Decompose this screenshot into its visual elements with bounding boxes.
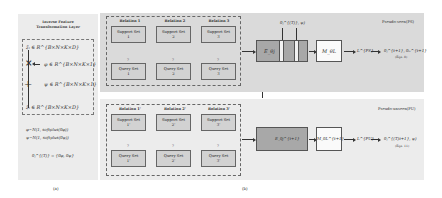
output-ps: θⱼ^{t+1}, θₘ^{t+1} <box>384 48 427 53</box>
question-mark: ? <box>124 57 132 62</box>
encoder-label: E_θj^{t+1} <box>275 136 300 141</box>
eqn-ref: (Eqn. 11) <box>395 144 409 148</box>
support-set-box: Support Set1' <box>111 114 146 131</box>
relation-label: Relation 3 <box>204 19 234 23</box>
query-set-box: Query Set2 <box>156 63 191 80</box>
pseudo-unseen-label: Pseudo-unseen(PU) <box>378 106 416 111</box>
query-set-box: Query Set2' <box>156 150 191 167</box>
m-block: M_θL <box>316 40 342 62</box>
dist-phi: φ~N(1, softplus(θφ)) <box>26 127 68 132</box>
arrow-to-output <box>371 51 379 52</box>
caption-a: (a) <box>53 186 59 191</box>
arrow-to-m <box>309 139 315 140</box>
arrow-to-loss <box>344 51 354 52</box>
eq-z-input: z̃ᵢ ∈ R^{B×N×K×D} <box>26 44 79 50</box>
support-set-box: Support Set2' <box>156 114 191 131</box>
arrow-phi <box>34 64 40 65</box>
question-mark: ? <box>124 143 132 148</box>
feature-transform-layer <box>279 41 284 61</box>
eq-psi: ψ ∈ R^{B×N×K×1} <box>44 81 97 87</box>
add-icon: + <box>24 79 32 88</box>
relation-label: Relation 1' <box>115 107 145 111</box>
support-set-box: Support Set3 <box>201 26 236 43</box>
theta-def: θⱼ^{(T)} = {θφ, θψ} <box>32 153 74 158</box>
theta-input-label: θⱼ^{(T)}, ψ) <box>280 20 305 25</box>
caption-b: (b) <box>242 186 248 191</box>
m-block: M_θL^{t+1} <box>316 127 342 151</box>
eq-phi: φ ∈ R^{B×N×K×1} <box>44 61 96 67</box>
relation-label: Relation 1 <box>115 19 145 23</box>
support-set-box: Support Set2 <box>156 26 191 43</box>
relation-label: Relation 2' <box>160 107 190 111</box>
dist-psi: ψ~N(1, softplus(θψ)) <box>26 135 69 140</box>
question-mark: ? <box>169 57 177 62</box>
theta-arrow <box>296 28 297 40</box>
theta-arrow <box>282 28 283 40</box>
query-set-box: Query Set3 <box>201 63 236 80</box>
question-mark: ? <box>214 57 222 62</box>
query-set-box: Query Set3' <box>201 150 236 167</box>
down-arrow <box>262 92 263 98</box>
pseudo-seen-label: Pseudo-seen(PS) <box>382 19 414 24</box>
encoder-label: E_θj <box>264 48 275 54</box>
arrow-to-m <box>309 51 315 52</box>
arrow-to-encoder <box>242 139 254 140</box>
support-set-box: Support Set1 <box>111 26 146 43</box>
query-set-box: Query Set1' <box>111 150 146 167</box>
eqn-ref: (Eqn. 8) <box>395 55 407 59</box>
title-line-2: Transformation Layer <box>18 25 98 30</box>
arrow-to-loss <box>344 139 354 140</box>
panel-a-title: Inverse Feature Transformation Layer <box>18 20 98 30</box>
query-set-box: Query Set1 <box>111 63 146 80</box>
feature-transform-layer <box>294 41 299 61</box>
relation-label: Relation 2 <box>160 19 190 23</box>
eq-z-output: z̃ᵢ ∈ R^{B×N×K×D} <box>26 104 79 110</box>
arrow-to-encoder <box>242 51 254 52</box>
output-pu: θⱼ^{(T)t+1}, ψ) <box>384 136 416 141</box>
support-set-box: Support Set3' <box>201 114 236 131</box>
question-mark: ? <box>214 143 222 148</box>
question-mark: ? <box>169 143 177 148</box>
arrow-to-output <box>371 139 379 140</box>
relation-label: Relation 3' <box>204 107 234 111</box>
